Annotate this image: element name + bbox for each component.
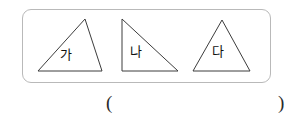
triangle-ga: [38, 19, 102, 71]
triangles-canvas: [22, 9, 271, 83]
figure-root: 가 나 다 ( ): [0, 0, 293, 124]
triangle-label-na: 나: [130, 45, 142, 58]
answer-blank[interactable]: [118, 92, 276, 114]
answer-row: ( ): [100, 92, 290, 118]
answer-open-paren: (: [106, 92, 112, 114]
answer-close-paren: ): [278, 92, 284, 114]
triangle-label-ga: 가: [60, 48, 72, 61]
triangle-label-da: 다: [212, 45, 224, 58]
